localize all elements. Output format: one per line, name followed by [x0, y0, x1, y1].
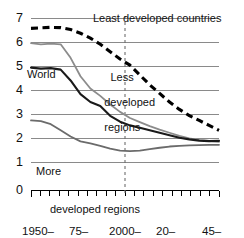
- more-developed-line1: More: [36, 165, 144, 178]
- world-label: World: [27, 68, 56, 81]
- x-tick-label-20-25: 20– 25: [156, 200, 202, 238]
- less-developed-line1: Less: [110, 71, 133, 83]
- y-tick-label-2: 2: [7, 132, 23, 145]
- y-tick-label-7: 7: [7, 12, 23, 25]
- less-developed-line3: regions: [104, 121, 140, 133]
- least-developed-countries-label: Least developed countries: [93, 12, 221, 25]
- y-tick-label-4: 4: [7, 84, 23, 97]
- x-tick-label-45-50: 45– 50: [202, 200, 244, 238]
- more-developed-regions-label: More developed regions: [36, 140, 144, 238]
- y-tick-label-3: 3: [7, 108, 23, 121]
- less-developed-regions-label: Less developed regions: [92, 58, 140, 146]
- y-tick-label-0: 0: [7, 184, 23, 197]
- y-tick-label-6: 6: [7, 36, 23, 49]
- x-tick-line1: 45–: [202, 225, 244, 238]
- x-tick-line1: 20–: [156, 225, 202, 238]
- y-tick-label-1: 1: [7, 156, 23, 169]
- more-developed-line2: developed regions: [50, 203, 144, 216]
- y-tick-label-5: 5: [7, 60, 23, 73]
- fertility-rate-line-chart: 7 6 5 4 3 2 1 0 1950– 55 75– 80 2000– 05…: [0, 0, 244, 238]
- less-developed-line2: developed: [104, 96, 155, 108]
